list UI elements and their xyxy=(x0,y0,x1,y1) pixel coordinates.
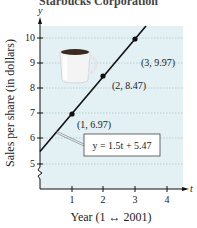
svg-text:7: 7 xyxy=(30,107,35,118)
svg-text:9: 9 xyxy=(30,57,35,68)
x-tick-labels: 1 2 3 4 xyxy=(70,194,170,205)
x-axis-arrow-icon xyxy=(182,187,189,191)
y-tick-labels: 10 9 8 7 6 5 xyxy=(25,32,35,169)
svg-text:(3, 9.97): (3, 9.97) xyxy=(141,57,175,69)
x-var-label: t xyxy=(190,183,193,194)
svg-text:6: 6 xyxy=(30,132,35,143)
data-point-1 xyxy=(69,111,74,116)
x-axis-title: Year (1 ↔ 2001) xyxy=(70,210,151,224)
chart: 10 9 8 7 6 5 1 2 3 4 y t Year (1 ↔ 2001)… xyxy=(0,0,197,228)
y-axis-arrow-icon xyxy=(38,17,42,24)
equation-label: y = 1.5t + 5.47 xyxy=(92,140,151,151)
svg-text:(2, 8.47): (2, 8.47) xyxy=(112,80,146,92)
svg-text:10: 10 xyxy=(25,32,35,43)
plot-area xyxy=(40,26,183,189)
svg-text:5: 5 xyxy=(30,158,35,169)
svg-text:(1, 6.97): (1, 6.97) xyxy=(77,119,111,131)
svg-text:1: 1 xyxy=(70,194,75,205)
svg-text:2: 2 xyxy=(101,194,106,205)
y-axis-title: Sales per share (in dollars) xyxy=(3,39,17,167)
data-point-2 xyxy=(100,73,105,78)
y-var-label: y xyxy=(37,5,43,16)
svg-text:4: 4 xyxy=(165,194,170,205)
svg-text:3: 3 xyxy=(133,194,138,205)
data-point-3 xyxy=(132,36,137,41)
svg-text:8: 8 xyxy=(30,82,35,93)
